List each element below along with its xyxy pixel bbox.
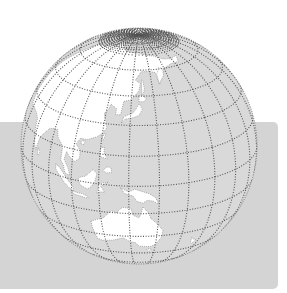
globe-map — [0, 0, 287, 293]
globe-illustration: Globe centered on Asia-Pacific — [0, 0, 287, 293]
